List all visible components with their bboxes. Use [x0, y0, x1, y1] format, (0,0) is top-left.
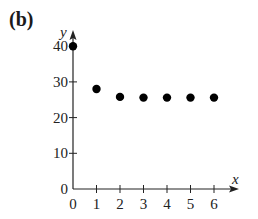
- x-tick-label: 4: [163, 196, 171, 212]
- data-points: [69, 42, 218, 102]
- data-point: [210, 93, 218, 101]
- scatter-chart: xy 0123456010203040: [0, 0, 258, 219]
- data-point: [139, 93, 147, 101]
- data-point: [186, 93, 194, 101]
- data-point: [163, 93, 171, 101]
- data-point: [69, 42, 77, 50]
- y-tick-label: 30: [53, 74, 68, 90]
- ticks: 0123456010203040: [53, 38, 218, 212]
- x-tick-label: 0: [69, 196, 77, 212]
- x-tick-label: 1: [93, 196, 101, 212]
- x-axis-label: x: [231, 171, 239, 187]
- x-tick-label: 3: [140, 196, 148, 212]
- data-point: [116, 93, 124, 101]
- data-point: [92, 85, 100, 93]
- y-tick-label: 0: [61, 181, 69, 197]
- axes: xy: [58, 24, 239, 193]
- y-tick-label: 10: [53, 145, 68, 161]
- y-tick-label: 20: [53, 110, 68, 126]
- y-tick-label: 40: [53, 38, 68, 54]
- x-tick-label: 2: [116, 196, 124, 212]
- x-tick-label: 5: [187, 196, 195, 212]
- x-tick-label: 6: [210, 196, 218, 212]
